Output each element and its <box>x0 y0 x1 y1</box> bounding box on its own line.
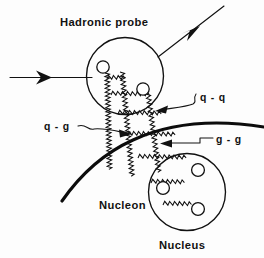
probe-parton-group <box>97 61 149 95</box>
gluon-rail-left <box>105 73 112 169</box>
incoming-beam <box>10 71 92 85</box>
nucleus-parton-2 <box>157 182 170 195</box>
probe-parton-1 <box>97 61 109 73</box>
label-g-g: g - g <box>216 134 242 145</box>
outgoing-beam <box>158 6 224 57</box>
leader-q-q-arrowhead <box>155 106 168 114</box>
nucleus-parton-1 <box>192 164 205 177</box>
gluon-rail-middle <box>120 72 134 176</box>
hadronic-probe-circle <box>87 38 164 115</box>
probe-parton-2 <box>137 83 149 95</box>
nucleus-parton-3 <box>192 203 205 216</box>
label-nucleus: Nucleus <box>159 239 205 251</box>
leader-g-g <box>160 138 213 148</box>
leader-q-g <box>78 125 132 137</box>
leader-q-q <box>155 94 196 114</box>
label-hadronic-probe: Hadronic probe <box>60 16 148 28</box>
nucleus-parton-group <box>157 164 205 216</box>
label-q-q: q - q <box>200 92 226 103</box>
label-q-g: q - g <box>44 121 70 132</box>
physics-diagram-canvas: Hadronic probe q - q q - g g - g Nucleon… <box>0 0 264 258</box>
gluon-rung-5 <box>138 154 186 159</box>
outgoing-beam-arrowhead <box>181 26 200 41</box>
figure-root: Hadronic probe q - q q - g g - g Nucleon… <box>0 0 264 258</box>
gluon-rung-7 <box>163 201 191 205</box>
leader-g-g-arrowhead <box>160 140 172 148</box>
label-nucleon: Nucleon <box>99 199 146 211</box>
